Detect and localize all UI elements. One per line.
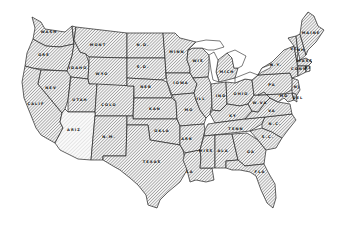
state-label-texas: TEXAS: [143, 160, 162, 164]
state-label-la: LA: [186, 170, 193, 174]
map-canvas: WASHORECALIFNEVIDAHOMONTWYOUTAHCOLOARIZN…: [0, 0, 341, 226]
state-label-ky: KY: [229, 114, 237, 118]
state-label-ind: IND: [216, 94, 227, 98]
state-label-nj: NJ: [294, 85, 301, 89]
state-label-okla: OKLA: [154, 129, 169, 133]
state-label-fla: FLA: [255, 170, 266, 174]
state-label-tenn: TENN: [228, 127, 243, 131]
state-label-wyo: WYO: [96, 72, 109, 76]
state-label-neb: NEB: [140, 85, 152, 89]
state-label-sd: S.D.: [137, 65, 150, 69]
state-colo: [95, 84, 134, 116]
state-label-nc: N.C.: [269, 122, 282, 126]
states-layer: [22, 12, 324, 208]
state-label-maine: MAINE: [302, 31, 321, 35]
state-label-nm: N.M.: [102, 135, 116, 139]
state-label-mich: MICH: [220, 70, 235, 74]
state-label-kan: KAN: [149, 107, 161, 111]
state-label-ohio: OHIO: [234, 92, 249, 96]
state-label-ariz: ARIZ: [67, 128, 81, 132]
state-label-nev: NEV: [45, 86, 57, 90]
state-label-ark: ARK: [181, 137, 193, 141]
state-wis: [187, 48, 209, 78]
state-label-calif: CALIF: [27, 102, 44, 106]
state-label-nh: NH: [297, 48, 305, 52]
state-label-colo: COLO: [101, 103, 116, 107]
state-label-ore: ORE: [38, 53, 50, 57]
state-label-mo: MO: [185, 108, 194, 112]
us-map: WASHORECALIFNEVIDAHOMONTWYOUTAHCOLOARIZN…: [0, 0, 341, 226]
state-label-sc: S.C.: [262, 135, 274, 139]
state-label-mass: MASS: [297, 59, 313, 63]
state-label-ny: N.Y.: [270, 63, 282, 67]
state-label-idaho: IDAHO: [69, 66, 88, 70]
state-label-va: VA: [268, 109, 276, 113]
state-label-pa: PA: [268, 83, 275, 87]
state-label-iowa: IOWA: [173, 81, 188, 85]
state-fla: [226, 160, 276, 208]
state-label-md: MD: [280, 94, 289, 98]
state-label-ri: RI: [305, 66, 311, 70]
state-label-ala: ALA: [217, 149, 228, 153]
state-label-wva: W.VA: [253, 101, 268, 105]
state-label-mont: MONT: [90, 43, 107, 47]
state-ariz: [55, 109, 95, 160]
state-label-ill: ILL: [196, 97, 205, 101]
state-label-del: DEL: [292, 96, 303, 100]
state-label-nd: N.D.: [136, 43, 149, 47]
state-label-ga: GA: [247, 150, 255, 154]
state-label-minn: MINN: [169, 50, 184, 54]
state-label-miss: MISS: [199, 149, 213, 153]
state-label-utah: UTAH: [72, 98, 87, 102]
state-label-wis: WIS: [192, 59, 203, 63]
state-label-wash: WASH: [41, 30, 58, 34]
state-sd: [127, 58, 166, 80]
